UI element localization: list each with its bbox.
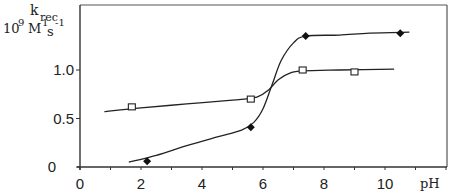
x-tick-label: 10 bbox=[377, 175, 394, 191]
y-label-units-sexp: -1 bbox=[55, 17, 65, 28]
diamond-marker bbox=[302, 32, 310, 40]
y-label-units-M: M bbox=[28, 21, 41, 36]
x-tick-label: 0 bbox=[76, 175, 84, 191]
y-tick-label: 1.0 bbox=[53, 61, 74, 78]
plot-frame bbox=[77, 5, 447, 170]
x-tick-label: 8 bbox=[320, 175, 328, 191]
square-marker bbox=[247, 96, 254, 102]
y-label-units-s: s bbox=[47, 24, 54, 39]
chart: 0246810 00.51.0 pH bbox=[0, 0, 450, 191]
x-tick-label: 2 bbox=[137, 175, 145, 191]
y-axis: 00.51.0 bbox=[48, 61, 80, 175]
x-tick-label: 4 bbox=[198, 175, 206, 191]
square-marker bbox=[299, 67, 306, 73]
fit-curves bbox=[104, 32, 409, 162]
y-label-k: k bbox=[30, 2, 38, 18]
diamond-marker bbox=[247, 123, 255, 131]
fit-curve bbox=[129, 32, 410, 162]
y-tick-label: 0 bbox=[48, 158, 56, 175]
x-axis-label: pH bbox=[420, 176, 440, 191]
square-marker bbox=[351, 69, 358, 75]
data-markers bbox=[128, 29, 404, 165]
x-tick-label: 6 bbox=[259, 175, 267, 191]
square-marker bbox=[128, 104, 135, 110]
y-label-units-exp: 9 bbox=[18, 17, 24, 28]
y-tick-label: 0.5 bbox=[53, 110, 74, 127]
diamond-marker bbox=[396, 29, 404, 37]
x-axis: 0246810 bbox=[76, 167, 446, 191]
